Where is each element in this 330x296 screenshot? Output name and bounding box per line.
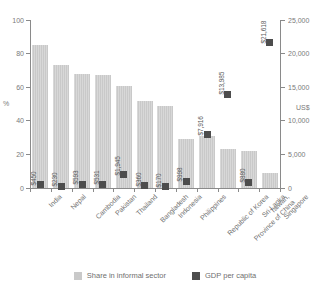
gdp-per-capita-value-label: $7,916 xyxy=(198,116,205,135)
gdp-per-capita-marker xyxy=(266,39,273,46)
y-axis-left-tick xyxy=(26,20,30,21)
x-axis-tick xyxy=(155,188,156,192)
chart-legend: Share in informal sector GDP per capita xyxy=(0,272,330,280)
gdp-per-capita-marker xyxy=(120,171,127,178)
y-axis-left-tick xyxy=(26,120,30,121)
bar-texture xyxy=(32,45,48,188)
bar-texture xyxy=(220,149,236,188)
legend-item-informal-sector: Share in informal sector xyxy=(74,272,166,280)
gdp-per-capita-value-label: $170 xyxy=(156,173,163,187)
y-axis-left-tick-label: 0 xyxy=(20,185,24,192)
x-axis-tick xyxy=(134,188,135,192)
x-axis-category-label: India xyxy=(48,193,64,209)
y-axis-right-tick-label: 15,000 xyxy=(288,84,309,91)
x-axis-tick xyxy=(197,188,198,192)
y-axis-right-tick-label: 10,000 xyxy=(288,117,309,124)
y-axis-right-tick xyxy=(281,154,285,155)
x-axis-category-label: Thailand xyxy=(134,193,158,217)
x-axis-tick xyxy=(280,188,281,192)
gdp-per-capita-marker xyxy=(245,179,252,186)
bar-informal-sector xyxy=(32,45,48,188)
y-axis-right-tick-label: 5,000 xyxy=(288,151,306,158)
gdp-per-capita-value-label: $21,618 xyxy=(260,20,267,43)
y-axis-right-tick xyxy=(281,20,285,21)
x-axis-tick xyxy=(259,188,260,192)
bar-informal-sector xyxy=(53,65,69,188)
y-axis-left-tick-label: 100 xyxy=(12,17,24,24)
bar-texture xyxy=(262,173,278,188)
gdp-per-capita-marker xyxy=(162,183,169,190)
y-axis-right-tick-label: 25,000 xyxy=(288,17,309,24)
gdp-per-capita-value-label: $360 xyxy=(135,172,142,186)
y-axis-right-tick-label: 0 xyxy=(288,185,292,192)
x-axis-tick xyxy=(238,188,239,192)
x-axis-tick xyxy=(72,188,73,192)
gdp-per-capita-value-label: $998 xyxy=(177,168,184,182)
y-axis-left-tick-label: 40 xyxy=(16,117,24,124)
gdp-per-capita-marker xyxy=(224,91,231,98)
bar-informal-sector xyxy=(199,136,215,188)
legend-label-informal-sector: Share in informal sector xyxy=(87,272,166,280)
y-axis-right-tick xyxy=(281,120,285,121)
gdp-per-capita-value-label: $531 xyxy=(93,171,100,185)
chart-container: % US$ 020406080100 05,00010,00015,00020,… xyxy=(0,0,330,296)
y-axis-right-title: US$ xyxy=(296,104,310,111)
x-axis-tick xyxy=(113,188,114,192)
gdp-per-capita-marker xyxy=(37,181,44,188)
gdp-per-capita-marker xyxy=(141,182,148,189)
y-axis-left-tick xyxy=(26,154,30,155)
bar-texture xyxy=(199,136,215,188)
x-axis-category-label: Nepal xyxy=(70,193,88,211)
x-axis-tick xyxy=(51,188,52,192)
gdp-per-capita-value-label: $230 xyxy=(52,173,59,187)
gdp-per-capita-marker xyxy=(183,178,190,185)
gdp-per-capita-value-label: $880 xyxy=(239,169,246,183)
y-axis-right-line xyxy=(280,20,281,188)
y-axis-right-tick xyxy=(281,87,285,88)
gdp-per-capita-value-label: $1,945 xyxy=(114,156,121,175)
x-axis-tick xyxy=(30,188,31,192)
gdp-per-capita-value-label: $593 xyxy=(73,170,80,184)
y-axis-left-tick xyxy=(26,53,30,54)
bar-texture xyxy=(53,65,69,188)
x-axis-tick xyxy=(176,188,177,192)
bar-informal-sector xyxy=(220,149,236,188)
y-axis-left-tick-label: 60 xyxy=(16,84,24,91)
gdp-per-capita-marker xyxy=(58,183,65,190)
x-axis-tick xyxy=(218,188,219,192)
y-axis-left-tick-label: 80 xyxy=(16,50,24,57)
y-axis-left-title: % xyxy=(3,100,9,107)
y-axis-right-tick xyxy=(281,53,285,54)
y-axis-right-tick-label: 20,000 xyxy=(288,50,309,57)
legend-swatch-marker-icon xyxy=(192,272,200,280)
legend-label-gdp-per-capita: GDP per capita xyxy=(205,272,256,280)
legend-swatch-bar-icon xyxy=(74,272,82,280)
y-axis-left-tick xyxy=(26,87,30,88)
y-axis-left-line xyxy=(30,20,31,188)
legend-item-gdp-per-capita: GDP per capita xyxy=(192,272,256,280)
gdp-per-capita-marker xyxy=(204,131,211,138)
gdp-per-capita-value-label: $450 xyxy=(31,171,38,185)
gdp-per-capita-marker xyxy=(79,181,86,188)
gdp-per-capita-marker xyxy=(99,181,106,188)
bar-informal-sector xyxy=(262,173,278,188)
y-axis-right-tick xyxy=(281,188,285,189)
x-axis-tick xyxy=(93,188,94,192)
gdp-per-capita-value-label: $13,985 xyxy=(218,72,225,95)
y-axis-left-tick-label: 20 xyxy=(16,151,24,158)
